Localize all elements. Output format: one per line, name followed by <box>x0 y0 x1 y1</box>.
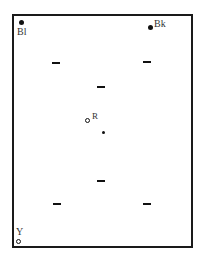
dash-marker <box>97 86 105 88</box>
marker-y-label: Y <box>16 227 23 237</box>
marker-r-label: R <box>92 111 98 121</box>
marker-r-ring-icon <box>85 118 90 123</box>
marker-y-ring-icon <box>16 239 21 244</box>
dash-marker <box>53 203 61 205</box>
marker-bk-label: Bk <box>154 19 166 29</box>
dash-marker <box>143 203 151 205</box>
dash-marker <box>143 61 151 63</box>
center-dot-icon <box>102 131 105 134</box>
marker-bl-dot-icon <box>19 20 24 25</box>
marker-bl-label: Bl <box>17 27 26 37</box>
dash-marker <box>52 62 60 64</box>
marker-bk-dot-icon <box>148 25 153 30</box>
dash-marker <box>97 180 105 182</box>
